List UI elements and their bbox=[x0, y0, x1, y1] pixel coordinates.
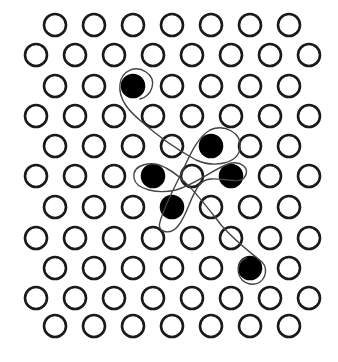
open-lattice-site bbox=[161, 315, 183, 337]
open-lattice-site bbox=[64, 227, 86, 249]
filled-lattice-site bbox=[220, 165, 242, 187]
open-lattice-site bbox=[122, 14, 144, 36]
open-lattice-site bbox=[64, 287, 86, 309]
open-lattice-site bbox=[239, 196, 261, 218]
open-lattice-site bbox=[103, 287, 125, 309]
open-lattice-site bbox=[64, 44, 86, 66]
filled-lattice-site bbox=[200, 135, 222, 157]
open-lattice-site bbox=[298, 287, 320, 309]
open-lattice-site bbox=[103, 165, 125, 187]
open-lattice-site bbox=[298, 44, 320, 66]
open-lattice-site bbox=[278, 14, 300, 36]
open-lattice-site bbox=[142, 44, 164, 66]
open-lattice-site bbox=[25, 44, 47, 66]
open-lattice-site bbox=[200, 196, 222, 218]
open-lattice-site bbox=[25, 287, 47, 309]
open-lattice-site bbox=[122, 135, 144, 157]
open-lattice-site bbox=[83, 14, 105, 36]
open-lattice-site bbox=[44, 135, 66, 157]
open-lattice-site bbox=[278, 196, 300, 218]
open-lattice-site bbox=[44, 196, 66, 218]
open-lattice-site bbox=[278, 135, 300, 157]
open-lattice-site bbox=[142, 105, 164, 127]
open-lattice-site bbox=[181, 105, 203, 127]
open-lattice-site bbox=[220, 227, 242, 249]
open-lattice-site bbox=[161, 75, 183, 97]
open-lattice-site bbox=[83, 196, 105, 218]
open-lattice-site bbox=[220, 287, 242, 309]
open-lattice-site bbox=[44, 75, 66, 97]
lattice-diagram bbox=[0, 0, 338, 362]
open-lattice-site bbox=[64, 105, 86, 127]
open-lattice-site bbox=[298, 227, 320, 249]
open-lattice-site bbox=[200, 14, 222, 36]
open-lattice-site bbox=[259, 105, 281, 127]
open-lattice-site bbox=[44, 315, 66, 337]
open-lattice-site bbox=[161, 257, 183, 279]
filled-lattice-site bbox=[142, 165, 164, 187]
open-lattice-site bbox=[103, 44, 125, 66]
open-lattice-site bbox=[83, 257, 105, 279]
open-lattice-site bbox=[181, 287, 203, 309]
open-lattice-site bbox=[122, 257, 144, 279]
filled-lattice-site bbox=[161, 196, 183, 218]
open-lattice-site bbox=[64, 165, 86, 187]
open-lattice-site bbox=[25, 165, 47, 187]
open-lattice-site bbox=[161, 14, 183, 36]
open-lattice-site bbox=[200, 315, 222, 337]
open-lattice-site bbox=[259, 44, 281, 66]
open-lattice-site bbox=[142, 287, 164, 309]
filled-lattice-site bbox=[122, 75, 144, 97]
open-lattice-site bbox=[278, 75, 300, 97]
open-lattice-site bbox=[83, 315, 105, 337]
open-lattice-site bbox=[122, 315, 144, 337]
open-lattice-site bbox=[239, 75, 261, 97]
open-lattice-site bbox=[122, 196, 144, 218]
open-lattice-site bbox=[44, 257, 66, 279]
open-lattice-site bbox=[239, 135, 261, 157]
open-lattice-site bbox=[200, 257, 222, 279]
open-lattice-site bbox=[25, 105, 47, 127]
open-lattice-site bbox=[239, 315, 261, 337]
open-lattice-site bbox=[259, 165, 281, 187]
open-lattice-site bbox=[181, 44, 203, 66]
open-lattice-site bbox=[25, 227, 47, 249]
open-lattice-site bbox=[103, 227, 125, 249]
open-lattice-site bbox=[220, 44, 242, 66]
open-lattice-site bbox=[259, 287, 281, 309]
open-lattice-site bbox=[298, 105, 320, 127]
lattice-sites bbox=[25, 14, 320, 337]
open-lattice-site bbox=[259, 227, 281, 249]
open-lattice-site bbox=[181, 227, 203, 249]
open-lattice-site bbox=[103, 105, 125, 127]
open-lattice-site bbox=[83, 135, 105, 157]
open-lattice-site bbox=[44, 14, 66, 36]
open-lattice-site bbox=[278, 257, 300, 279]
open-lattice-site bbox=[200, 75, 222, 97]
open-lattice-site bbox=[83, 75, 105, 97]
open-lattice-site bbox=[220, 105, 242, 127]
open-lattice-site bbox=[278, 315, 300, 337]
open-lattice-site bbox=[239, 14, 261, 36]
open-lattice-site bbox=[298, 165, 320, 187]
